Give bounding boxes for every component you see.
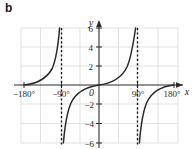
origin-label: 0 [89,87,94,98]
y-axis-label: y [88,17,94,28]
x-tick-label-pos90: 90° [132,89,145,99]
x-tick-label-neg90: −90° [52,89,70,99]
y-tick-label-neg4: −4 [84,119,94,129]
y-tick-label-2: 2 [89,62,94,72]
y-tick-label-neg2: −2 [84,100,94,110]
y-tick-label-neg6: −6 [84,139,94,149]
branch-left [24,28,60,85]
x-axis-arrowhead [176,82,183,88]
x-axis-label: x [184,86,190,97]
figure-container: b [0,0,193,149]
x-tick-label-neg180: −180° [13,89,36,99]
y-axis-arrowhead [96,20,102,27]
y-tick-label-4: 4 [89,43,94,53]
x-tick-label-pos180: 180° [163,89,181,99]
tangent-graph: 6 4 2 0 −2 −4 −6 −180° −90° 90° 180° y x [0,0,193,149]
